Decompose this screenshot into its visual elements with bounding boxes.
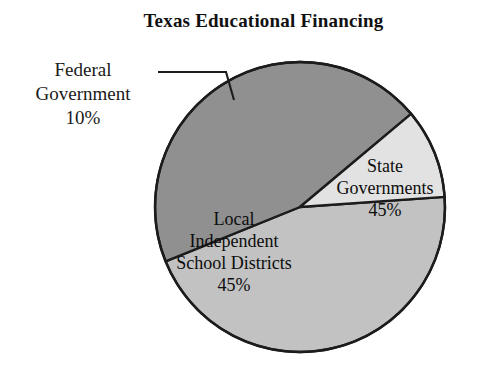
state-governments-slice-label: State Governments 45%: [318, 155, 452, 221]
federal-callout-line-1: Federal: [8, 58, 158, 82]
local-districts-slice-label: Local Independent School Districts 45%: [150, 208, 318, 296]
pie-chart-figure: Texas Educational Financing Federal Gove…: [0, 0, 483, 372]
local-label-line-1: Local: [150, 208, 318, 230]
local-label-percent: 45%: [150, 274, 318, 296]
federal-government-callout: Federal Government 10%: [8, 58, 158, 130]
local-label-line-3: School Districts: [150, 252, 318, 274]
local-label-line-2: Independent: [150, 230, 318, 252]
state-label-line-1: State: [318, 155, 452, 177]
state-label-percent: 45%: [318, 199, 452, 221]
federal-callout-percent: 10%: [8, 106, 158, 130]
federal-callout-line-2: Government: [8, 82, 158, 106]
state-label-line-2: Governments: [318, 177, 452, 199]
